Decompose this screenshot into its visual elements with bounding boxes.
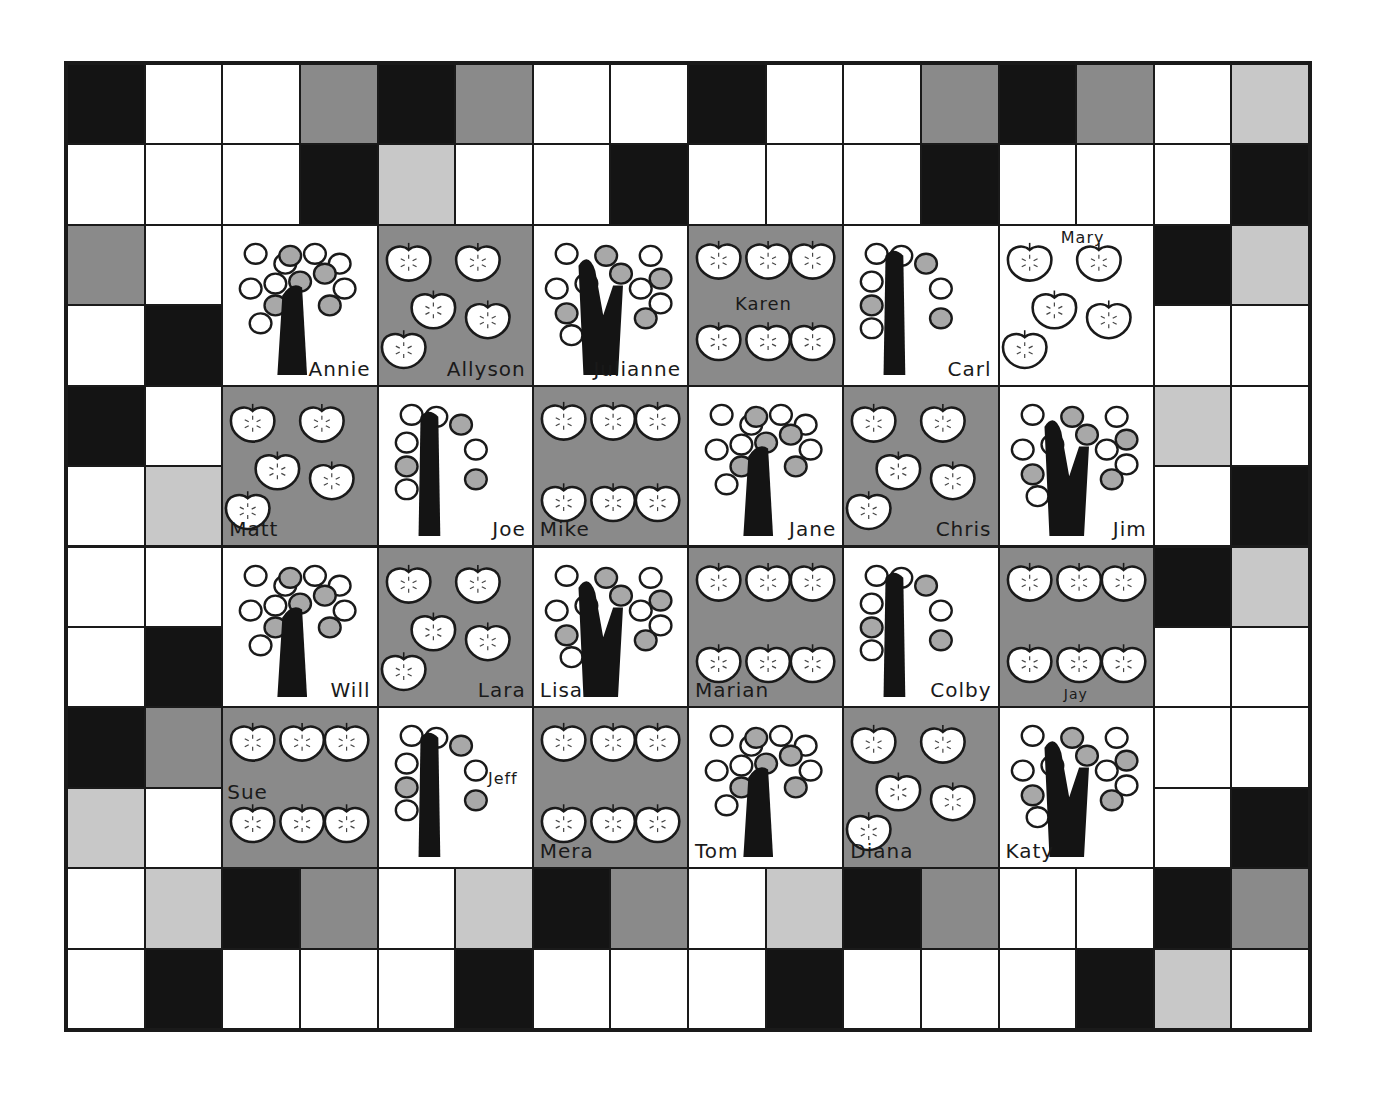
- student-name: Diana: [850, 839, 913, 863]
- border-square: [688, 868, 766, 948]
- student-name: Mera: [540, 839, 594, 863]
- student-name: Chris: [936, 517, 992, 541]
- border-square: [1231, 225, 1309, 305]
- border-square: [999, 868, 1077, 948]
- student-name: Colby: [930, 678, 991, 702]
- border-square: [999, 949, 1077, 1029]
- student-name: Marian: [695, 678, 769, 702]
- border-square: [67, 64, 145, 144]
- quilt-block-will: Will: [222, 547, 377, 708]
- quilt-block-mike: Mike: [533, 386, 688, 547]
- border-square: [67, 868, 145, 948]
- border-square: [766, 144, 844, 224]
- border-square: [1154, 949, 1232, 1029]
- student-name: Carl: [948, 357, 992, 381]
- border-square: [1154, 788, 1232, 868]
- border-square: [67, 386, 145, 466]
- student-name: Will: [330, 678, 370, 702]
- border-square: [1076, 868, 1154, 948]
- border-square: [67, 144, 145, 224]
- border-square: [1231, 144, 1309, 224]
- border-square: [222, 64, 300, 144]
- student-name: Tom: [695, 839, 739, 863]
- border-square: [1231, 386, 1309, 466]
- student-name: Karen: [735, 293, 792, 314]
- border-square: [455, 64, 533, 144]
- border-square: [1076, 64, 1154, 144]
- border-square: [145, 707, 223, 787]
- border-square: [222, 144, 300, 224]
- border-square: [688, 144, 766, 224]
- student-name: Katy: [1006, 839, 1055, 863]
- border-square: [610, 64, 688, 144]
- border-square: [999, 144, 1077, 224]
- student-name: Julianne: [593, 357, 681, 381]
- border-square: [300, 868, 378, 948]
- student-name: Sue: [227, 780, 268, 804]
- student-name: Annie: [309, 357, 371, 381]
- border-square: [766, 868, 844, 948]
- border-square: [1154, 64, 1232, 144]
- student-name: Mike: [540, 517, 590, 541]
- border-square: [1231, 466, 1309, 546]
- border-square: [1231, 949, 1309, 1029]
- quilt-block-matt: Matt: [222, 386, 377, 547]
- border-square: [300, 64, 378, 144]
- quilt-block-mera: Mera: [533, 707, 688, 868]
- border-square: [1231, 547, 1309, 627]
- quilt-block-diana: Diana: [843, 707, 998, 868]
- border-square: [378, 949, 456, 1029]
- border-square: [533, 144, 611, 224]
- border-square: [1076, 144, 1154, 224]
- border-square: [455, 949, 533, 1029]
- quilt-block-lara: Lara: [378, 547, 533, 708]
- border-square: [300, 949, 378, 1029]
- border-square: [67, 547, 145, 627]
- border-square: [145, 788, 223, 868]
- student-name: Jim: [1113, 517, 1147, 541]
- border-square: [1231, 868, 1309, 948]
- border-square: [921, 144, 999, 224]
- border-square: [378, 64, 456, 144]
- border-square: [145, 547, 223, 627]
- border-square: [1231, 627, 1309, 707]
- quilt-block-jay: Jay: [999, 547, 1154, 708]
- student-name: Joe: [492, 517, 525, 541]
- border-square: [145, 386, 223, 466]
- border-square: [1231, 707, 1309, 787]
- border-square: [145, 868, 223, 948]
- border-square: [378, 144, 456, 224]
- border-square: [455, 868, 533, 948]
- border-square: [1154, 868, 1232, 948]
- border-square: [1231, 64, 1309, 144]
- border-square: [67, 707, 145, 787]
- border-square: [766, 949, 844, 1029]
- border-square: [67, 788, 145, 868]
- quilt-block-lisa: Lisa: [533, 547, 688, 708]
- border-square: [1154, 386, 1232, 466]
- student-name: Jane: [789, 517, 836, 541]
- border-square: [67, 305, 145, 385]
- border-square: [145, 64, 223, 144]
- quilt-block-karen: Karen: [688, 225, 843, 386]
- border-square: [67, 225, 145, 305]
- border-square: [688, 64, 766, 144]
- student-name: Allyson: [447, 357, 526, 381]
- quilt-block-annie: Annie: [222, 225, 377, 386]
- border-square: [1154, 547, 1232, 627]
- border-square: [610, 949, 688, 1029]
- student-name: Matt: [229, 517, 278, 541]
- border-square: [300, 144, 378, 224]
- student-name: Jeff: [488, 769, 518, 788]
- border-square: [533, 949, 611, 1029]
- quilt-block-jim: Jim: [999, 386, 1154, 547]
- border-square: [1154, 225, 1232, 305]
- border-square: [1231, 788, 1309, 868]
- border-square: [921, 64, 999, 144]
- border-square: [145, 144, 223, 224]
- border-square: [766, 64, 844, 144]
- border-square: [1154, 466, 1232, 546]
- border-square: [145, 305, 223, 385]
- quilt-block-allyson: Allyson: [378, 225, 533, 386]
- quilt-block-joe: Joe: [378, 386, 533, 547]
